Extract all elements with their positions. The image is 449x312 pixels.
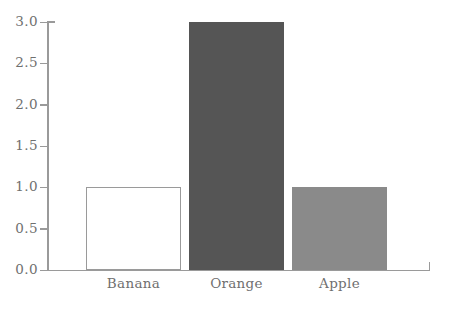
y-tick-mark xyxy=(40,63,48,65)
x-tick-label-apple: Apple xyxy=(292,277,387,291)
y-tick-mark xyxy=(40,22,48,24)
bar-chart: 0.0 0.5 1.0 1.5 2.0 2.5 3.0 Banana Orang… xyxy=(0,0,449,312)
y-tick-label-1: 0.5 xyxy=(15,222,38,236)
bar-apple xyxy=(292,187,387,270)
y-tick-label-3: 1.5 xyxy=(15,139,38,153)
y-tick-mark xyxy=(40,146,48,148)
x-tick-label-banana: Banana xyxy=(86,277,181,291)
y-tick-mark xyxy=(40,104,48,106)
y-tick-label-5: 2.5 xyxy=(15,56,38,70)
bar-orange xyxy=(189,22,284,270)
x-tick-label-orange: Orange xyxy=(189,277,284,291)
bar-banana xyxy=(86,187,181,270)
y-tick-label-0: 0.0 xyxy=(15,263,38,277)
y-tick-mark xyxy=(40,270,48,272)
y-tick-label-4: 2.0 xyxy=(15,98,38,112)
y-axis-top-cap xyxy=(47,21,55,23)
y-tick-label-6: 3.0 xyxy=(15,15,38,29)
x-axis-right-cap xyxy=(429,262,431,270)
y-tick-label-2: 1.0 xyxy=(15,180,38,194)
y-tick-mark xyxy=(40,187,48,189)
y-tick-mark xyxy=(40,228,48,230)
